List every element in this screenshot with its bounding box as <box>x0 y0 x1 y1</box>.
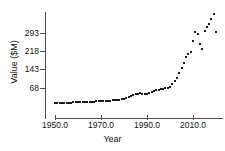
data-point <box>213 13 215 15</box>
plot-area <box>0 0 225 151</box>
data-point <box>206 26 208 28</box>
data-point <box>199 43 201 45</box>
data-point <box>201 48 203 50</box>
data-point <box>197 33 199 35</box>
data-point <box>174 80 176 82</box>
data-point <box>169 86 171 88</box>
data-point <box>204 30 206 32</box>
data-point <box>190 51 192 53</box>
data-point <box>181 67 183 69</box>
data-point <box>215 31 217 33</box>
data-point <box>210 18 212 20</box>
data-point <box>171 83 173 85</box>
scatter-chart: 293 218 143 68 1950.0 1970.0 1990.0 2010… <box>0 0 225 151</box>
data-point <box>183 62 185 64</box>
data-point <box>176 77 178 79</box>
data-point <box>208 23 210 25</box>
data-point <box>185 56 187 58</box>
data-point <box>187 53 189 55</box>
data-point <box>178 72 180 74</box>
data-point <box>192 40 194 42</box>
